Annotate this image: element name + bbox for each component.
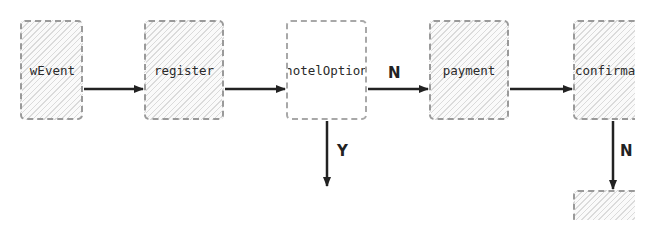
flow-diagram: wEvent register hotelOption payment conf…: [0, 0, 635, 220]
edge-label-y: Y: [337, 142, 348, 160]
edge-label-n: N: [388, 64, 401, 82]
edges: [0, 0, 635, 220]
edge-label-n: N: [620, 142, 633, 160]
